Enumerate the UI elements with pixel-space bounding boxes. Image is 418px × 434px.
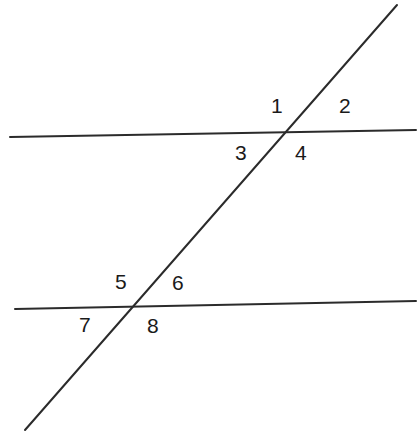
angle-label-1: 1 <box>271 95 283 116</box>
angle-label-7: 7 <box>79 314 91 335</box>
angle-label-4: 4 <box>295 142 307 163</box>
geometry-diagram: 1 2 3 4 5 6 7 8 <box>0 0 418 434</box>
angle-label-8: 8 <box>147 315 159 336</box>
angle-label-2: 2 <box>339 95 351 116</box>
angle-label-5: 5 <box>115 271 127 292</box>
diagram-canvas <box>0 0 418 434</box>
angle-label-3: 3 <box>235 142 247 163</box>
angle-label-6: 6 <box>172 272 184 293</box>
diagram-background <box>0 0 418 434</box>
